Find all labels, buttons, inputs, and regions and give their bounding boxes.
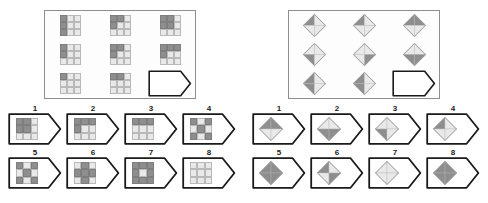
matrix-frame-left bbox=[44, 10, 196, 99]
grid-square-2 bbox=[117, 73, 124, 80]
option-piece[interactable] bbox=[368, 113, 422, 145]
grid-square-7 bbox=[190, 177, 197, 184]
matrix-cell-blank[interactable] bbox=[389, 69, 439, 98]
grid-square-8 bbox=[139, 133, 146, 140]
grid-square-7 bbox=[160, 29, 167, 36]
grid-square-1 bbox=[160, 15, 167, 22]
quadrant-diamond-figure bbox=[303, 14, 326, 37]
matrix-frame-right bbox=[288, 10, 440, 99]
grid-square-6 bbox=[89, 125, 96, 132]
square-grid-figure bbox=[132, 162, 154, 184]
grid-square-9 bbox=[147, 177, 154, 184]
grid-square-9 bbox=[205, 133, 212, 140]
grid-square-8 bbox=[167, 58, 174, 65]
answer-option-7[interactable]: 7 bbox=[368, 148, 422, 189]
answer-option-7[interactable]: 7 bbox=[124, 148, 178, 189]
grid-square-1 bbox=[74, 162, 81, 169]
answer-option-6[interactable]: 6 bbox=[310, 148, 364, 189]
square-grid-figure bbox=[110, 15, 131, 36]
matrix-cell-blank[interactable] bbox=[145, 69, 195, 98]
grid-square-4 bbox=[132, 169, 139, 176]
grid-square-4 bbox=[190, 169, 197, 176]
option-figure-slot bbox=[432, 160, 458, 186]
matrix-cell bbox=[145, 11, 195, 40]
answer-option-5[interactable]: 5 bbox=[8, 148, 62, 189]
grid-square-8 bbox=[139, 177, 146, 184]
grid-square-7 bbox=[110, 58, 117, 65]
answer-option-8[interactable]: 8 bbox=[182, 148, 236, 189]
option-piece[interactable] bbox=[426, 157, 480, 189]
square-grid-figure bbox=[60, 73, 81, 94]
grid-square-9 bbox=[31, 177, 38, 184]
answer-option-8[interactable]: 8 bbox=[426, 148, 480, 189]
option-number-label: 7 bbox=[124, 148, 178, 157]
answer-option-2[interactable]: 2 bbox=[310, 104, 364, 145]
quadrant-diamond-figure bbox=[317, 161, 341, 185]
option-piece[interactable] bbox=[310, 157, 364, 189]
answer-option-4[interactable]: 4 bbox=[182, 104, 236, 145]
grid-square-1 bbox=[60, 44, 67, 51]
answer-option-4[interactable]: 4 bbox=[426, 104, 480, 145]
option-number-label: 4 bbox=[426, 104, 480, 113]
option-piece[interactable] bbox=[252, 113, 306, 145]
answer-option-1[interactable]: 1 bbox=[252, 104, 306, 145]
option-piece[interactable] bbox=[310, 113, 364, 145]
answer-option-1[interactable]: 1 bbox=[8, 104, 62, 145]
grid-square-7 bbox=[16, 177, 23, 184]
option-piece[interactable] bbox=[252, 157, 306, 189]
quadrant-diamond-figure bbox=[375, 117, 399, 141]
option-figure-slot bbox=[72, 160, 98, 186]
matrix-cell bbox=[289, 11, 339, 40]
option-number-label: 1 bbox=[8, 104, 62, 113]
grid-square-6 bbox=[147, 125, 154, 132]
option-piece[interactable] bbox=[66, 157, 120, 189]
square-grid-figure bbox=[110, 73, 131, 94]
answer-option-2[interactable]: 2 bbox=[66, 104, 120, 145]
grid-square-6 bbox=[124, 22, 131, 29]
option-piece[interactable] bbox=[124, 113, 178, 145]
matrix-grid-left bbox=[45, 11, 195, 98]
quadrant-diamond-figure bbox=[303, 43, 326, 66]
grid-square-4 bbox=[110, 51, 117, 58]
option-piece[interactable] bbox=[182, 157, 236, 189]
grid-square-9 bbox=[74, 29, 81, 36]
answer-option-6[interactable]: 6 bbox=[66, 148, 120, 189]
missing-piece-placeholder[interactable] bbox=[392, 70, 436, 97]
grid-square-4 bbox=[110, 80, 117, 87]
grid-square-3 bbox=[124, 15, 131, 22]
grid-square-3 bbox=[124, 73, 131, 80]
answer-options-right: 1 2 3 4 5 6 7 8 bbox=[252, 104, 480, 192]
grid-square-2 bbox=[81, 118, 88, 125]
grid-square-3 bbox=[205, 118, 212, 125]
grid-square-1 bbox=[110, 73, 117, 80]
option-piece[interactable] bbox=[124, 157, 178, 189]
option-row: 5 6 7 8 bbox=[8, 148, 236, 189]
grid-square-7 bbox=[60, 87, 67, 94]
missing-piece-placeholder[interactable] bbox=[148, 70, 192, 97]
answer-option-3[interactable]: 3 bbox=[368, 104, 422, 145]
option-piece[interactable] bbox=[8, 157, 62, 189]
grid-square-9 bbox=[147, 133, 154, 140]
option-piece[interactable] bbox=[8, 113, 62, 145]
option-figure-slot bbox=[258, 160, 284, 186]
option-piece[interactable] bbox=[368, 157, 422, 189]
grid-square-8 bbox=[23, 177, 30, 184]
grid-square-9 bbox=[89, 133, 96, 140]
grid-square-4 bbox=[16, 169, 23, 176]
square-grid-figure bbox=[60, 44, 81, 65]
puzzle-right: 1 2 3 4 5 6 7 8 bbox=[244, 0, 488, 203]
matrix-grid-right bbox=[289, 11, 439, 98]
option-number-label: 1 bbox=[252, 104, 306, 113]
option-number-label: 5 bbox=[252, 148, 306, 157]
answer-option-3[interactable]: 3 bbox=[124, 104, 178, 145]
option-figure-slot bbox=[432, 116, 458, 142]
grid-square-5 bbox=[139, 125, 146, 132]
option-piece[interactable] bbox=[66, 113, 120, 145]
grid-square-5 bbox=[81, 169, 88, 176]
grid-square-6 bbox=[174, 51, 181, 58]
option-piece[interactable] bbox=[182, 113, 236, 145]
option-piece[interactable] bbox=[426, 113, 480, 145]
grid-square-3 bbox=[74, 44, 81, 51]
answer-option-5[interactable]: 5 bbox=[252, 148, 306, 189]
grid-square-1 bbox=[160, 44, 167, 51]
